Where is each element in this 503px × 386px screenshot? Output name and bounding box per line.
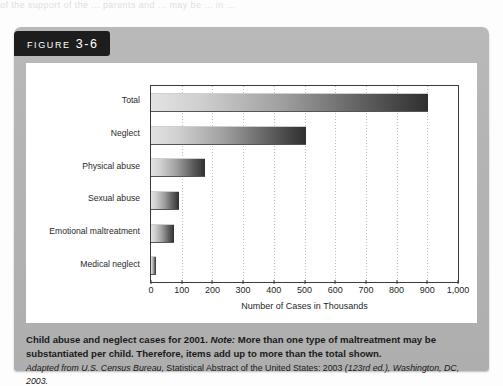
- x-tick-label: 400: [266, 285, 281, 295]
- bar: [151, 126, 306, 145]
- category-label: Medical neglect: [80, 259, 140, 269]
- x-tick-label: 300: [236, 285, 251, 295]
- x-tick-label: 800: [389, 285, 404, 295]
- category-label: Neglect: [111, 128, 140, 138]
- x-axis-ticks: 01002003004005006007008009001,000: [150, 285, 459, 299]
- source-italic: Adapted from U.S. Census Bureau,: [26, 363, 164, 373]
- plot-area: [150, 85, 459, 283]
- x-tick-mark: [273, 280, 274, 284]
- x-axis-title: Number of Cases in Thousands: [150, 301, 459, 311]
- category-label: Total: [122, 95, 140, 105]
- x-tick-mark: [365, 280, 366, 284]
- x-tick-label: 100: [174, 285, 189, 295]
- x-tick-mark: [427, 280, 428, 284]
- x-tick-mark: [335, 280, 336, 284]
- x-tick-label: 200: [205, 285, 220, 295]
- page-bleed-text: of the support of the ... parents and ..…: [0, 0, 503, 12]
- x-tick-mark: [151, 280, 152, 284]
- figure-number-label: Figure 3-6: [14, 37, 99, 51]
- x-tick-label: 1,000: [447, 285, 470, 295]
- category-label: Emotional maltreatment: [49, 226, 140, 236]
- x-tick-label: 900: [420, 285, 435, 295]
- x-tick-label: 600: [328, 285, 343, 295]
- category-label: Physical abuse: [82, 161, 140, 171]
- x-tick-mark: [212, 280, 213, 284]
- figure-page: of the support of the ... parents and ..…: [0, 0, 503, 386]
- chart-card: TotalNeglectPhysical abuseSexual abuseEm…: [26, 63, 477, 323]
- x-tick-label: 0: [148, 285, 153, 295]
- category-axis-labels: TotalNeglectPhysical abuseSexual abuseEm…: [26, 85, 146, 283]
- bar: [151, 191, 179, 210]
- caption-lead: Child abuse and neglect cases for 2001.: [26, 334, 208, 345]
- x-tick-mark: [396, 280, 397, 284]
- figure-panel: Figure 3-6 TotalNeglectPhysical abuseSex…: [14, 27, 489, 371]
- x-tick-label: 500: [297, 285, 312, 295]
- x-tick-mark: [458, 280, 459, 284]
- x-tick-label: 700: [358, 285, 373, 295]
- figure-caption: Child abuse and neglect cases for 2001. …: [26, 333, 481, 386]
- figure-number-tab: Figure 3-6: [14, 31, 110, 56]
- bar: [151, 256, 156, 275]
- category-label: Sexual abuse: [88, 193, 140, 203]
- bar-series: [151, 86, 458, 282]
- x-tick-mark: [304, 280, 305, 284]
- bar: [151, 158, 205, 177]
- x-tick-mark: [181, 280, 182, 284]
- x-tick-mark: [243, 280, 244, 284]
- caption-main: Child abuse and neglect cases for 2001. …: [26, 333, 481, 360]
- bar: [151, 93, 428, 112]
- chart-plot-wrapper: TotalNeglectPhysical abuseSexual abuseEm…: [26, 63, 477, 323]
- caption-note-word: Note:: [211, 334, 236, 345]
- source-rest: Statistical Abstract of the United State…: [164, 363, 345, 373]
- bar: [151, 224, 174, 243]
- caption-source: Adapted from U.S. Census Bureau, Statist…: [26, 362, 481, 386]
